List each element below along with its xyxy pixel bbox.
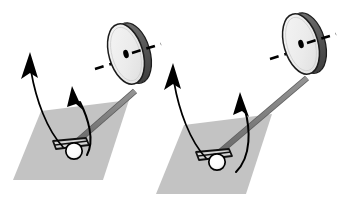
pivot-ball-right bbox=[209, 154, 225, 170]
pivot-ball-left bbox=[66, 143, 82, 159]
gyroscope-diagram bbox=[0, 0, 345, 201]
figure-root bbox=[0, 0, 345, 201]
